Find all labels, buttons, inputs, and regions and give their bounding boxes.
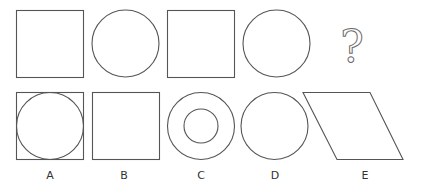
sequence-square-1 xyxy=(17,11,84,78)
option-a-label[interactable]: A xyxy=(40,169,60,182)
svg-text:?: ? xyxy=(340,21,364,72)
option-e-figure[interactable] xyxy=(303,93,403,160)
option-d-label[interactable]: D xyxy=(265,169,285,182)
sequence-row: ? xyxy=(17,10,364,78)
option-e-label[interactable]: E xyxy=(355,169,375,182)
puzzle-canvas: ? xyxy=(0,0,421,189)
option-b-label[interactable]: B xyxy=(114,169,134,182)
option-c-figure[interactable] xyxy=(168,93,235,160)
option-c-label[interactable]: C xyxy=(191,169,211,182)
option-d-figure[interactable] xyxy=(241,93,308,160)
question-mark-icon: ? xyxy=(340,21,364,72)
sequence-circle-2 xyxy=(243,10,310,77)
sequence-circle-1 xyxy=(92,10,159,77)
option-b-figure[interactable] xyxy=(93,93,160,160)
option-a-figure[interactable] xyxy=(17,93,84,160)
sequence-square-2 xyxy=(168,11,235,78)
